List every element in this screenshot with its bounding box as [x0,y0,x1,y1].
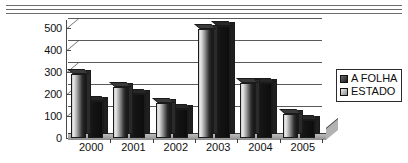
x-tick-label-2004: 2004 [238,142,284,153]
y-tick-label-0: 0 [16,133,62,144]
bar-side-face [103,97,108,134]
x-tick-label-2005: 2005 [280,142,326,153]
y-tick-label-200: 200 [16,89,62,100]
y-tick-400 [66,50,71,51]
bar-front-face [198,29,213,138]
bar-a-folha-2003 [198,29,213,138]
light-swatch-icon [340,88,348,96]
x-tick-label-2002: 2002 [153,142,199,153]
y-tick-label-300: 300 [16,67,62,78]
legend-item-a-folha[interactable]: A FOLHA [340,72,397,85]
x-tick-label-2000: 2000 [68,142,114,153]
legend-item-label: A FOLHA [351,73,397,84]
y-axis-line [66,20,67,139]
legend-item-label: ESTADO [351,86,395,97]
plot-floor-right [326,118,338,140]
chart-legend: A FOLHAESTADO [336,69,402,102]
bar-side-face [171,99,176,134]
bar-front-face [240,83,255,138]
gridline-300 [68,62,322,63]
legend-item-estado[interactable]: ESTADO [340,85,397,98]
gridline-200 [68,84,322,85]
bar-front-face [71,74,86,138]
gridline-400 [68,40,322,41]
bar-side-face [145,90,150,134]
bar-a-folha-2005 [283,114,298,138]
y-tick-label-100: 100 [16,111,62,122]
bar-side-face [86,70,91,134]
x-tick-2005 [322,139,323,143]
dark-swatch-icon [340,75,348,83]
bar-a-folha-2002 [156,103,171,138]
bar-side-face [272,79,277,134]
y-tick-label-400: 400 [16,45,62,56]
x-tick-label-2003: 2003 [195,142,241,153]
bar-a-folha-2000 [71,74,86,138]
bar-front-face [156,103,171,138]
y-tick-label-500: 500 [16,23,62,34]
gridline-depth-400 [67,40,92,50]
bar-a-folha-2004 [240,83,255,138]
bar-side-face [255,79,260,134]
bar-side-face [188,105,193,134]
bar-a-folha-2001 [113,87,128,138]
bar-front-face [283,114,298,138]
chart-figure: 0100200300400500 20002001200220032004200… [0,0,408,163]
plot-area: 0100200300400500 20002001200220032004200… [0,0,340,163]
gridline-500 [68,18,322,19]
gridline-depth-500 [67,18,92,28]
bar-side-face [128,83,133,134]
x-tick-label-2001: 2001 [111,142,157,153]
bar-front-face [113,87,128,138]
bar-side-face [213,25,218,134]
y-tick-500 [66,28,71,29]
bar-side-face [230,22,235,134]
